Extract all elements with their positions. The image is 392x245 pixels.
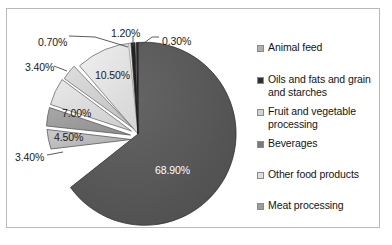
legend-item-label: Meat processing	[268, 199, 344, 212]
pie-data-label: 7.00%	[62, 107, 91, 119]
legend-swatch-icon	[257, 141, 264, 148]
legend-item[interactable]: Meat processing	[257, 199, 379, 212]
chart-legend: Animal feed Oils and fats and grain and …	[257, 13, 381, 225]
pie-data-label: 0.30%	[162, 35, 191, 47]
pie-data-label: 10.50%	[95, 69, 130, 81]
legend-item-label: Beverages	[268, 137, 317, 150]
legend-item[interactable]: Beverages	[257, 137, 379, 150]
legend-item-label: Other food products	[268, 168, 359, 181]
legend-swatch-icon	[257, 203, 264, 210]
legend-item[interactable]: Fruit and vegetable processing	[257, 105, 379, 130]
legend-swatch-icon	[257, 77, 264, 84]
chart-frame: 0.70% 1.20% 0.30% 3.40% 10.50% 7.00% 4.5…	[6, 8, 380, 228]
pie-data-label: 1.20%	[111, 27, 140, 39]
legend-swatch-icon	[257, 45, 264, 52]
pie-data-label: 0.70%	[38, 36, 67, 48]
pie-data-label: 4.50%	[54, 131, 83, 143]
legend-swatch-icon	[257, 109, 264, 116]
pie-plot-area: 0.70% 1.20% 0.30% 3.40% 10.50% 7.00% 4.5…	[7, 9, 255, 227]
legend-item[interactable]: Animal feed	[257, 41, 379, 54]
pie-data-label: 3.40%	[15, 151, 44, 163]
legend-item-label: Animal feed	[268, 41, 322, 54]
legend-item-label: Oils and fats and grain and starches	[268, 73, 379, 98]
pie-data-label: 3.40%	[25, 61, 54, 73]
legend-item[interactable]: Other food products	[257, 168, 379, 181]
legend-swatch-icon	[257, 172, 264, 179]
legend-item-label: Fruit and vegetable processing	[268, 105, 379, 130]
legend-item[interactable]: Oils and fats and grain and starches	[257, 73, 379, 98]
pie-data-label: 68.90%	[155, 164, 190, 176]
